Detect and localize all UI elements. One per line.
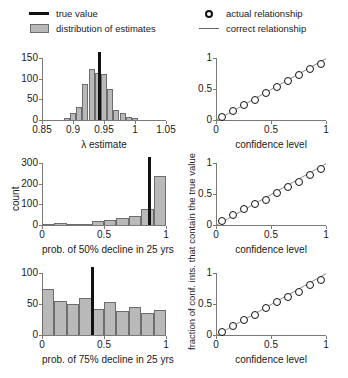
y-tick <box>39 79 42 80</box>
data-point-marker <box>317 165 325 173</box>
legend-item-label: true value <box>56 8 98 19</box>
histogram-bar <box>116 218 128 225</box>
x-tick-label: 0 <box>213 230 219 240</box>
data-point-marker <box>240 316 248 324</box>
histogram-bar <box>54 301 66 335</box>
data-point-marker <box>262 304 270 312</box>
panel-coverage-3: 00.5100.51confidence level <box>176 259 348 364</box>
data-point-marker <box>273 298 281 306</box>
y-tick <box>39 99 42 100</box>
y-tick <box>39 204 42 205</box>
y-tick-label: 150 <box>2 53 38 63</box>
histogram-bar <box>79 224 91 225</box>
y-tick <box>39 184 42 185</box>
data-point-marker <box>306 281 314 289</box>
y-tick <box>39 120 42 121</box>
gray-swatch-icon <box>26 24 52 33</box>
histogram-bar <box>104 302 116 335</box>
data-point-marker <box>229 322 237 330</box>
data-point-marker <box>317 276 325 284</box>
y-tick <box>213 58 216 59</box>
y-axis-line <box>216 163 217 225</box>
y-tick <box>39 58 42 59</box>
histogram-y-axis-label: count <box>10 187 21 211</box>
panel-coverage-2: 00.5100.51confidence level <box>176 153 348 253</box>
x-tick-label: 0.5 <box>264 230 278 240</box>
y-tick <box>39 335 42 336</box>
y-axis-line <box>42 163 43 225</box>
data-point-marker <box>273 189 281 197</box>
legend-histograms: true value distribution of estimates <box>26 6 156 36</box>
data-point-marker <box>229 107 237 115</box>
data-point-marker <box>317 60 325 68</box>
figure-canvas: true value distribution of estimates act… <box>0 0 348 378</box>
histogram-bar <box>116 311 128 335</box>
y-tick-label: 1 <box>176 53 212 63</box>
x-axis-label: confidence level <box>216 354 326 365</box>
legend-item-label: correct relationship <box>226 23 306 34</box>
legend-item-correct-relationship: correct relationship <box>196 21 306 36</box>
y-tick-label: 0 <box>2 330 38 340</box>
x-tick-label: 0.5 <box>97 230 111 240</box>
histogram-bar <box>79 298 91 335</box>
y-tick <box>39 163 42 164</box>
y-tick-label: 0 <box>176 115 212 125</box>
x-tick-label: 0.9 <box>66 125 80 135</box>
y-tick-label: 100 <box>2 74 38 84</box>
y-tick-label: 0.5 <box>176 84 212 94</box>
histogram-bar <box>42 289 54 336</box>
true-value-line <box>148 157 151 225</box>
y-tick-label: 300 <box>2 158 38 168</box>
data-point-marker <box>295 178 303 186</box>
x-axis-label: confidence level <box>216 139 326 150</box>
panel-hist-p75: 00.51050100prob. of 75% decline in 25 yr… <box>0 259 176 364</box>
data-point-marker <box>240 101 248 109</box>
data-point-marker <box>306 65 314 73</box>
panel-hist-lambda: 0.850.90.9511.05050100150λ estimate <box>0 48 176 148</box>
data-point-marker <box>218 113 226 121</box>
legend-item-label: distribution of estimates <box>56 23 156 34</box>
data-point-marker <box>295 71 303 79</box>
x-tick-label: 1 <box>323 230 329 240</box>
histogram-bar <box>154 310 166 335</box>
x-axis-label: prob. of 50% decline in 25 yrs <box>42 244 166 255</box>
histogram-bar <box>42 224 54 225</box>
y-tick <box>213 304 216 305</box>
histogram-bar <box>129 216 141 225</box>
histogram-bar <box>54 223 66 225</box>
histogram-bar <box>141 313 153 335</box>
panel-hist-p50: 00.510100200300prob. of 50% decline in 2… <box>0 153 176 253</box>
data-point-marker <box>218 328 226 336</box>
legend-item-actual-relationship: actual relationship <box>196 6 306 21</box>
x-tick-label: 0.85 <box>32 125 51 135</box>
x-tick-label: 0 <box>213 125 219 135</box>
histogram-bar <box>67 224 79 225</box>
data-point-marker <box>229 211 237 219</box>
data-point-marker <box>240 205 248 213</box>
data-point-marker <box>251 311 259 319</box>
x-tick-label: 0.5 <box>264 340 278 350</box>
x-tick-label: 0 <box>39 230 45 240</box>
x-tick-label: 0 <box>213 340 219 350</box>
data-point-marker <box>262 196 270 204</box>
histogram-bar <box>154 176 166 225</box>
data-point-marker <box>306 171 314 179</box>
thin-line-icon <box>196 28 222 29</box>
y-tick <box>213 273 216 274</box>
histogram-bar <box>129 307 141 335</box>
data-point-marker <box>218 217 226 225</box>
y-tick <box>213 163 216 164</box>
x-tick-label: 0.5 <box>97 340 111 350</box>
x-tick-label: 0 <box>39 340 45 350</box>
data-point-marker <box>262 89 270 97</box>
panel-coverage-1: 00.5100.51confidence level <box>176 48 348 148</box>
scatter-y-axis-label: fraction of conf. ints. that contain the… <box>186 153 197 350</box>
legend-item-true-value: true value <box>26 6 156 21</box>
histogram-bar <box>67 304 79 335</box>
x-axis-label: prob. of 75% decline in 25 yrs <box>42 354 166 365</box>
y-tick <box>39 273 42 274</box>
data-point-marker <box>273 83 281 91</box>
x-tick-label: 0.95 <box>94 125 113 135</box>
data-point-marker <box>284 293 292 301</box>
y-tick-label: 50 <box>2 299 38 309</box>
